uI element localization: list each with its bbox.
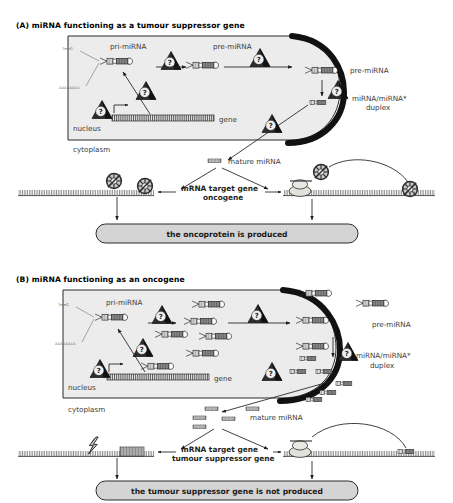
cytoplasm-label-a: cytoplasm (73, 145, 110, 154)
duplex-a (310, 100, 326, 104)
blocked-ribosome-icon (107, 174, 122, 189)
duplex-label-a-1: miRNA/miRNA* (352, 94, 407, 103)
mature-mirna-b (193, 416, 206, 420)
target-gene-label-a-2: oncogene (203, 193, 243, 202)
ribosome-icon (289, 441, 311, 458)
target-gene-label-a-1: mRNA target gene (181, 184, 258, 193)
outcome-text-b: the tumour suppressor gene is not produc… (131, 487, 323, 496)
cap-label-b: 7meG (58, 303, 69, 307)
blocked-ribosome-icon (403, 182, 418, 197)
cap-label-a: 7meG (62, 47, 73, 51)
target-gene-label-b-1: mRNA target gene (181, 445, 258, 454)
panel-b-title: (B) miRNA functioning as an oncogene (16, 275, 185, 284)
panel-a-title: (A) miRNA functioning as a tumour suppre… (16, 21, 245, 30)
duplex-b (306, 397, 322, 401)
polya-label-b: AAAAAAAA (55, 342, 76, 346)
recycle-curve-b (312, 423, 406, 448)
nucleus-a (68, 36, 340, 140)
bound-mirna-right-b (398, 449, 414, 453)
panel-b: (B) miRNA functioning as an oncogene nuc… (16, 275, 435, 500)
mature-mirna-a (208, 159, 221, 163)
duplex-label-b-2: duplex (370, 361, 395, 370)
nucleus-label-b: nucleus (68, 383, 96, 392)
nucleus-label-a: nucleus (73, 124, 101, 133)
pri-mirna-label-b: pri-miRNA (106, 298, 142, 307)
mature-mirna-b (222, 417, 235, 421)
gene-bar-a (112, 115, 214, 121)
gene-label-a: gene (219, 115, 238, 124)
blocked-ribosome-icon (138, 179, 153, 194)
pri-mirna-label-a: pri-miRNA (110, 42, 146, 51)
figure-canvas: ? (0, 0, 453, 503)
bound-mirna-left-b (120, 447, 144, 456)
cytoplasm-label-b: cytoplasm (68, 405, 105, 414)
pre-mirna-cytoplasm-label-a: pre-miRNA (350, 66, 389, 75)
mature-mirna-label-b: mature miRNA (250, 413, 303, 422)
duplex-b (336, 381, 352, 385)
pre-mirna-nucleus-label-a: pre-miRNA (213, 42, 252, 51)
recycle-curve-a (329, 160, 408, 182)
mirna-pathway-figure: ? (0, 0, 453, 503)
duplex-b (300, 356, 316, 360)
duplex-label-a-2: duplex (366, 103, 391, 112)
duplex-b (290, 369, 306, 373)
duplex-b (316, 369, 332, 373)
pre-mirna-cytoplasm-label-b: pre-miRNA (372, 320, 411, 329)
ribosome-icon (289, 180, 311, 197)
blocked-ribosome-icon (314, 165, 329, 180)
mature-mirna-b (246, 407, 259, 411)
target-mrna-left-a (18, 190, 154, 195)
mature-mirna-label-a: mature miRNA (228, 157, 281, 166)
target-gene-label-b-2: tumour suppressor gene (172, 454, 275, 463)
gene-bar-b (107, 374, 209, 380)
duplex-b (320, 390, 336, 394)
pre-mirna-cytoplasm-b (356, 300, 388, 306)
panel-a: (A) miRNA functioning as a tumour suppre… (16, 21, 435, 243)
mature-mirna-b (205, 407, 218, 411)
mature-mirna-b (193, 425, 206, 429)
polya-label-a: AAAAAAAA (59, 86, 80, 90)
gene-label-b: gene (214, 374, 233, 383)
duplex-label-b-1: miRNA/miRNA* (356, 351, 411, 360)
outcome-text-a: the oncoprotein is produced (166, 230, 287, 239)
